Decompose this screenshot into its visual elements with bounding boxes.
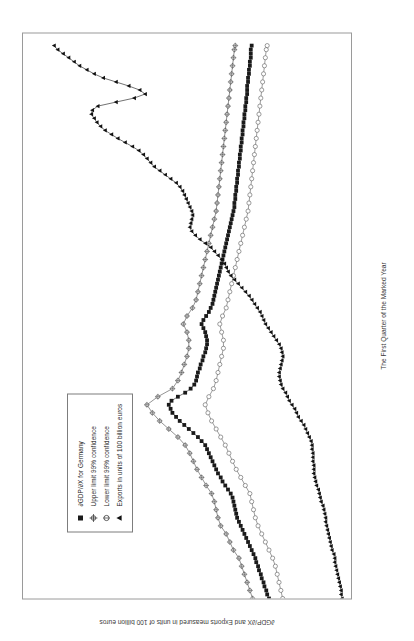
x-tick-minor xyxy=(351,318,352,319)
x-tick-minor xyxy=(351,520,352,521)
x-tick-minor xyxy=(351,395,352,396)
y-tick xyxy=(133,598,134,599)
legend-item: Exports in units of 100 billion euros xyxy=(113,403,126,524)
x-tick-minor xyxy=(351,390,352,391)
x-tick-minor xyxy=(351,152,352,153)
y-tick xyxy=(23,598,24,599)
x-tick-minor xyxy=(351,103,352,104)
x-tick-minor xyxy=(351,358,352,359)
x-tick-minor xyxy=(351,431,352,432)
x-tick-major xyxy=(351,500,352,501)
x-tick-major xyxy=(351,338,352,339)
x-tick-minor xyxy=(351,548,352,549)
x-tick-major xyxy=(351,79,352,80)
x-tick-minor xyxy=(351,480,352,481)
legend-label: ∂GDP/∂X for Germany xyxy=(77,441,84,506)
x-axis-title: The First Quarter of the Marked Year xyxy=(380,32,387,599)
chart-screenshot: ∂GDP/∂X for Germany Upper limit 99% conf… xyxy=(0,0,414,641)
x-tick-minor xyxy=(351,62,352,63)
y-tick xyxy=(280,598,281,599)
x-tick-minor xyxy=(351,504,352,505)
x-tick-minor xyxy=(351,443,352,444)
x-tick-minor xyxy=(351,196,352,197)
x-tick-minor xyxy=(351,342,352,343)
x-tick-minor xyxy=(351,561,352,562)
x-tick-minor xyxy=(351,496,352,497)
x-tick-minor xyxy=(351,277,352,278)
x-tick-minor xyxy=(351,66,352,67)
x-tick-minor xyxy=(351,471,352,472)
x-tick-minor xyxy=(351,156,352,157)
x-tick-minor xyxy=(351,71,352,72)
x-tick-minor xyxy=(351,419,352,420)
x-tick-minor xyxy=(351,585,352,586)
x-tick-minor xyxy=(351,180,352,181)
x-tick-minor xyxy=(351,115,352,116)
x-tick-minor xyxy=(351,423,352,424)
x-tick-minor xyxy=(351,168,352,169)
x-tick-minor xyxy=(351,99,352,100)
x-tick-minor xyxy=(351,366,352,367)
x-tick-minor xyxy=(351,34,352,35)
x-tick-minor xyxy=(351,314,352,315)
x-tick-minor xyxy=(351,415,352,416)
x-tick-minor xyxy=(351,569,352,570)
x-tick-minor xyxy=(351,224,352,225)
x-tick-minor xyxy=(351,91,352,92)
x-tick-minor xyxy=(351,326,352,327)
x-tick-minor xyxy=(351,160,352,161)
x-tick-minor xyxy=(351,172,352,173)
x-tick-major xyxy=(351,241,352,242)
x-tick-minor xyxy=(351,309,352,310)
x-tick-minor xyxy=(351,378,352,379)
x-tick-minor xyxy=(351,544,352,545)
x-tick-minor xyxy=(351,245,352,246)
plot-area: ∂GDP/∂X for Germany Upper limit 99% conf… xyxy=(22,32,352,599)
x-tick-minor xyxy=(351,107,352,108)
y-tick xyxy=(316,598,317,599)
x-tick-minor xyxy=(351,38,352,39)
y-tick xyxy=(41,598,42,599)
x-tick-minor xyxy=(351,216,352,217)
x-tick-minor xyxy=(351,350,352,351)
x-tick-minor xyxy=(351,164,352,165)
y-tick xyxy=(115,598,116,599)
open-circle-icon xyxy=(101,511,112,524)
x-tick-minor xyxy=(351,589,352,590)
x-tick-minor xyxy=(351,581,352,582)
x-tick-minor xyxy=(351,322,352,323)
x-tick-minor xyxy=(351,75,352,76)
x-tick-minor xyxy=(351,476,352,477)
x-tick-minor xyxy=(351,281,352,282)
x-tick-major xyxy=(351,565,352,566)
x-tick-minor xyxy=(351,536,352,537)
x-tick-major xyxy=(351,435,352,436)
x-tick-minor xyxy=(351,297,352,298)
x-tick-minor xyxy=(351,253,352,254)
x-tick-minor xyxy=(351,593,352,594)
x-tick-minor xyxy=(351,50,352,51)
x-tick-minor xyxy=(351,58,352,59)
x-tick-minor xyxy=(351,301,352,302)
cross-circle-icon xyxy=(88,511,99,524)
x-tick-major xyxy=(351,532,352,533)
x-tick-major xyxy=(351,597,352,598)
y-tick xyxy=(206,598,207,599)
x-tick-major xyxy=(351,143,352,144)
y-tick xyxy=(298,598,299,599)
y-tick xyxy=(78,598,79,599)
series-filled-square xyxy=(167,43,271,598)
legend-label: Lower limit 99% confidence xyxy=(103,426,110,506)
y-axis-title: ∂GDP/∂X and Exports measured in units of… xyxy=(22,618,352,625)
x-tick-minor xyxy=(351,233,352,234)
legend-label: Upper limit 99% confidence xyxy=(90,426,97,506)
x-tick-minor xyxy=(351,83,352,84)
x-tick-minor xyxy=(351,237,352,238)
x-tick-minor xyxy=(351,463,352,464)
figure-canvas: ∂GDP/∂X for Germany Upper limit 99% conf… xyxy=(0,0,414,641)
x-tick-minor xyxy=(351,459,352,460)
x-tick-minor xyxy=(351,135,352,136)
legend-item: Upper limit 99% confidence xyxy=(87,403,100,524)
x-tick-major xyxy=(351,467,352,468)
x-tick-minor xyxy=(351,540,352,541)
